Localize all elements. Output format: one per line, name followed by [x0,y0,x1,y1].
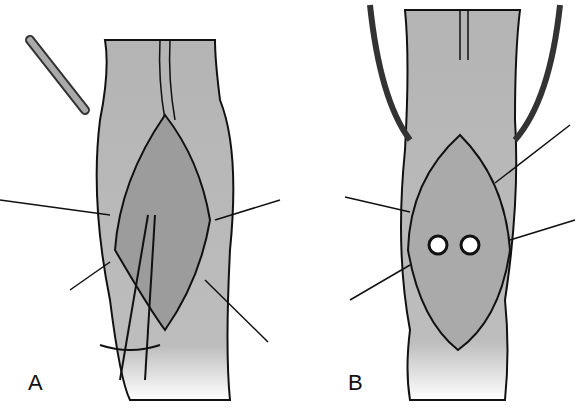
panel-label-b: B [348,370,363,396]
illustration [0,0,588,410]
panel-label-a: A [28,370,43,396]
panel-b-drawing [345,5,575,400]
panel-a-drawing [0,40,280,400]
